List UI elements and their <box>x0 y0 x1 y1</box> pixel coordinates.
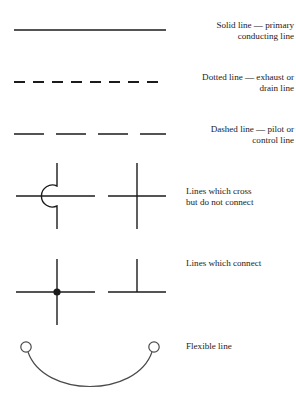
flexible-line-end-circle-right <box>149 342 159 352</box>
line-symbols-legend: Solid line — primary conducting line Dot… <box>0 0 296 403</box>
four-way-junction-symbol <box>16 259 95 325</box>
label-dotted-line: Dotted line — exhaust or drain line <box>186 72 294 95</box>
tee-junction-symbol <box>108 259 166 292</box>
flexible-line-end-circle-left <box>21 342 31 352</box>
connecting-lines-symbol <box>16 259 166 325</box>
label-lines-connect: Lines which connect <box>186 258 294 269</box>
junction-dot <box>53 288 60 295</box>
crossing-lines-symbol <box>16 163 166 229</box>
label-solid-line: Solid line — primary conducting line <box>186 20 294 43</box>
plain-cross-symbol <box>108 163 166 229</box>
crossover-hop-symbol <box>16 163 95 229</box>
label-lines-cross: Lines which cross but do not connect <box>186 186 294 209</box>
flexible-line-curve <box>28 352 152 387</box>
label-dashed-line: Dashed line — pilot or control line <box>186 124 294 147</box>
flexible-line-symbol <box>21 342 159 387</box>
label-flexible-line: Flexible line <box>186 341 294 352</box>
